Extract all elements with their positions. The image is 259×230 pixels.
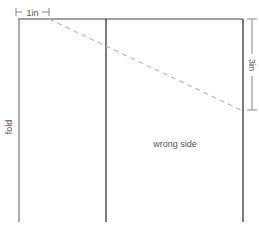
top-dimension-label: 1in [26,8,38,18]
pattern-diagram: 1in 3in fold wrong side [0,0,259,230]
fold-label: fold [4,120,14,135]
dashed-cut-line [49,19,243,111]
wrong-side-label: wrong side [152,139,197,149]
right-dimension-label: 3in [247,59,257,71]
